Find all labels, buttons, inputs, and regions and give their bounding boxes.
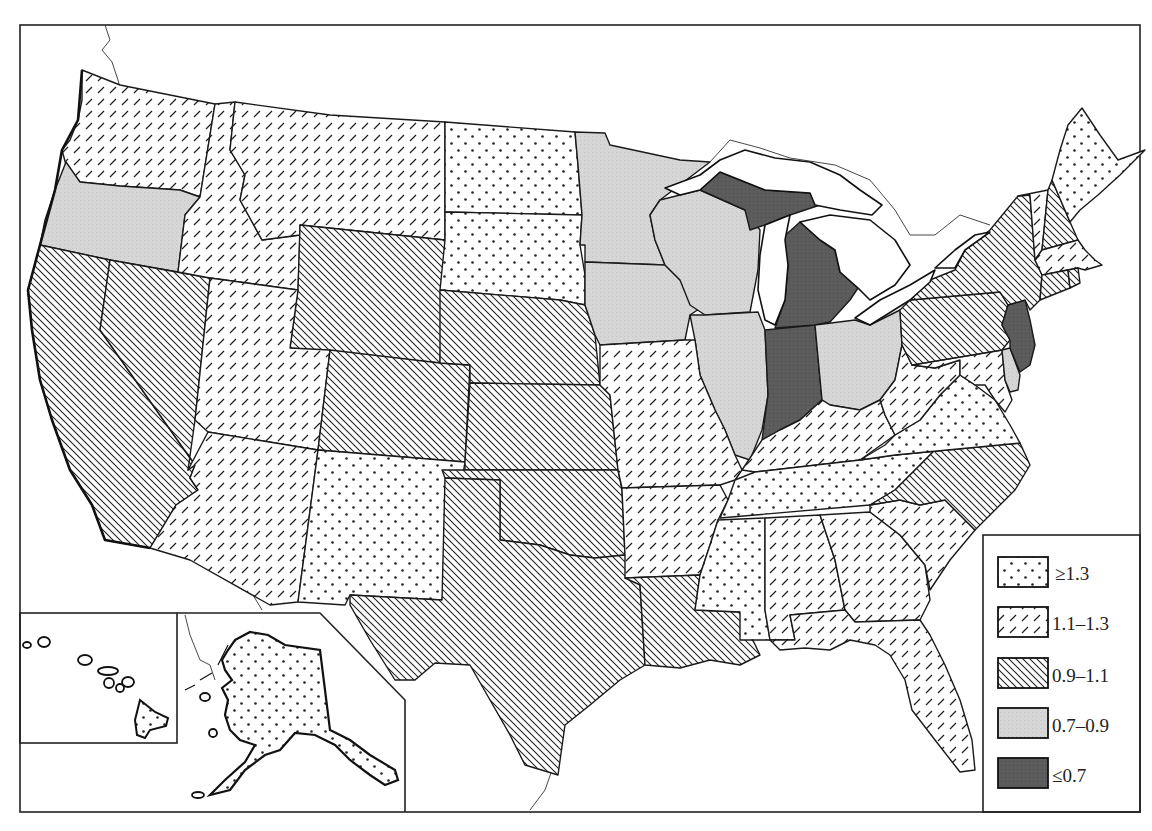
legend-swatch-dark-gray bbox=[998, 758, 1048, 788]
alaska-inset bbox=[185, 615, 398, 798]
legend-label-5: ≤0.7 bbox=[1052, 765, 1086, 786]
state-sd[interactable] bbox=[440, 212, 585, 305]
state-wy[interactable] bbox=[290, 225, 445, 363]
state-hi[interactable] bbox=[135, 700, 168, 738]
states-layer bbox=[28, 70, 1145, 775]
state-nm[interactable] bbox=[298, 450, 465, 605]
legend-label-2: 1.1–1.3 bbox=[1052, 613, 1109, 634]
state-ks[interactable] bbox=[465, 383, 618, 470]
state-wa[interactable] bbox=[62, 70, 215, 197]
legend-label-4: 0.7–0.9 bbox=[1052, 715, 1109, 736]
legend-swatch-dots bbox=[998, 557, 1048, 587]
state-ct[interactable] bbox=[1040, 270, 1070, 300]
legend-swatch-forward-hatch bbox=[998, 607, 1048, 637]
state-me[interactable] bbox=[1052, 108, 1145, 222]
state-ri[interactable] bbox=[1068, 268, 1080, 288]
hawaii-inset bbox=[23, 637, 168, 738]
state-co[interactable] bbox=[318, 350, 470, 462]
state-mt[interactable] bbox=[230, 102, 445, 240]
state-ny[interactable] bbox=[910, 195, 1042, 310]
state-ak[interactable] bbox=[210, 632, 398, 795]
legend-swatch-light-gray bbox=[998, 708, 1048, 738]
legend-swatch-back-hatch bbox=[998, 658, 1048, 688]
state-fl[interactable] bbox=[770, 610, 975, 772]
legend-label-3: 0.9–1.1 bbox=[1052, 665, 1109, 686]
legend-label-1: ≥1.3 bbox=[1055, 563, 1089, 584]
us-choropleth-map: ≥1.3 1.1–1.3 0.9–1.1 0.7–0.9 ≤0.7 bbox=[0, 0, 1152, 831]
state-nd[interactable] bbox=[445, 122, 582, 215]
legend: ≥1.3 1.1–1.3 0.9–1.1 0.7–0.9 ≤0.7 bbox=[983, 535, 1140, 812]
